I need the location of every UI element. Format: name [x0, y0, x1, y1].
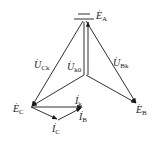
- dot-mark: ·: [54, 120, 57, 128]
- label-eb: ·EB: [136, 105, 147, 117]
- label-ec: ·EC: [13, 104, 24, 116]
- label-uck: ·UCk: [34, 60, 49, 72]
- ib-phasor: [58, 108, 81, 120]
- dot-mark: ·: [81, 108, 84, 116]
- dot-mark: ·: [115, 54, 118, 62]
- label-uk0: ·Uk0: [67, 62, 81, 74]
- dot-mark: ·: [98, 7, 101, 15]
- ic-phasor: [31, 107, 57, 119]
- dot-mark: ·: [138, 101, 141, 109]
- dot-mark: ·: [69, 58, 72, 66]
- label-ea: ·EA: [96, 11, 107, 23]
- dot-mark: ·: [36, 56, 39, 64]
- label-ubk: ·UBk: [113, 58, 128, 70]
- label-ib: ·IB: [79, 112, 87, 124]
- dot-mark: ·: [77, 92, 80, 100]
- label-ic: ·IC: [52, 124, 60, 136]
- dot-mark: ·: [15, 100, 18, 108]
- ubk-phasor: [86, 21, 136, 103]
- eb-phasor: [86, 75, 136, 103]
